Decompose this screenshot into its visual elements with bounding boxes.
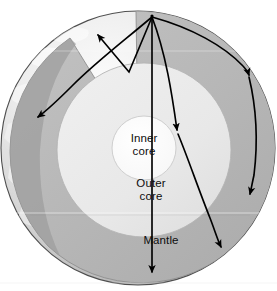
earth-cross-section-graphic bbox=[0, 0, 277, 291]
earth-seismic-diagram: Inner core Outer core Mantle bbox=[0, 0, 277, 291]
inner-core-region bbox=[112, 116, 176, 180]
earthquake-focus-point bbox=[150, 14, 153, 17]
